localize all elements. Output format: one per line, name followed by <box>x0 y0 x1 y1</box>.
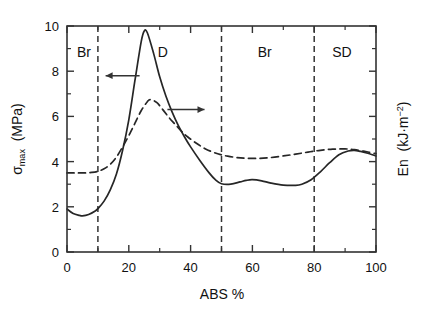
x-tick-label-0: 0 <box>63 260 70 275</box>
exponent-minus-two: −2 <box>395 106 405 116</box>
x-axis-label: ABS % <box>200 286 244 302</box>
region-label-d-1: D <box>158 44 168 60</box>
mpa-unit: (MPa) <box>9 103 25 149</box>
region-label-br-2: Br <box>258 44 272 60</box>
x-tick-label-5: 100 <box>365 260 387 275</box>
y-tick-label-left-3: 6 <box>52 109 59 124</box>
max-subscript: max <box>17 149 27 167</box>
y-tick-label-left-0: 0 <box>52 245 59 260</box>
closing-paren: ) <box>395 102 411 107</box>
en-label: En (kJ·m <box>395 117 411 177</box>
y-tick-label-left-2: 4 <box>52 155 59 170</box>
y-tick-label-left-5: 10 <box>45 19 59 34</box>
x-tick-label-3: 60 <box>245 260 259 275</box>
region-label-br-0: Br <box>77 44 91 60</box>
x-tick-label-2: 40 <box>183 260 197 275</box>
y-tick-label-left-4: 8 <box>52 64 59 79</box>
y-tick-label-left-1: 2 <box>52 200 59 215</box>
x-tick-label-1: 20 <box>122 260 136 275</box>
region-label-sd-3: SD <box>332 44 351 60</box>
figure-root: 0204060801000246810 BrDBrSD ABS % σmax (… <box>0 0 426 311</box>
sigma-max-en-vs-abs-chart: 0204060801000246810 BrDBrSD ABS % σmax (… <box>0 0 426 311</box>
x-tick-label-4: 80 <box>307 260 321 275</box>
